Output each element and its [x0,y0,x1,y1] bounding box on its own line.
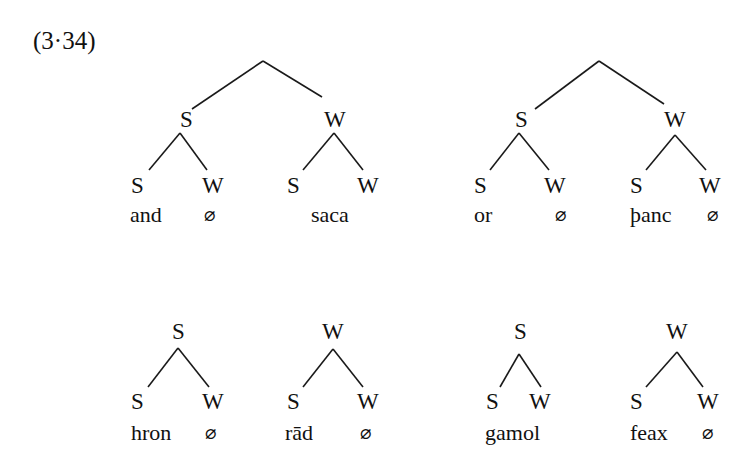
tree-hron: S S W hron ∅ [131,319,224,445]
node-s: S [287,173,300,198]
edge [519,354,541,387]
node-s: S [630,389,643,414]
node-s: S [474,173,487,198]
node-s: S [515,107,528,132]
edge [519,133,549,170]
null-symbol: ∅ [360,422,371,444]
edge [677,352,703,387]
word-or: or [474,202,493,227]
edge [646,352,677,387]
edge [180,133,207,170]
node-w: W [202,173,224,198]
edge [303,349,333,387]
null-symbol: ∅ [555,204,566,226]
tree-rad: W S W rād ∅ [285,319,379,445]
tree-gamol: S S W gamol [485,319,551,445]
node-w: W [529,389,551,414]
word-rad: rād [285,420,313,445]
node-w: W [699,173,721,198]
edge [192,61,263,109]
edge [149,133,180,170]
word-panc: þanc [630,202,672,227]
node-s: S [131,173,144,198]
node-w: W [324,107,346,132]
tree-or-panc: S W S W S W or ∅ þanc ∅ [474,61,721,227]
edge [263,61,322,97]
edge [675,135,706,170]
node-w: W [544,173,566,198]
node-s: S [131,389,144,414]
node-s: S [514,319,527,344]
word-feax: feax [630,420,668,445]
node-s: S [180,107,193,132]
edge [535,61,599,109]
node-w: W [322,319,344,344]
null-symbol: ∅ [702,422,713,444]
edge [178,348,209,387]
tree-and-saca: S W S W S W and ∅ saca [130,61,379,227]
null-symbol: ∅ [205,422,216,444]
node-w: W [697,389,719,414]
tree-feax: W S W feax ∅ [630,319,719,445]
node-w: W [357,173,379,198]
edge [500,354,519,387]
edge [646,135,675,170]
edge [333,349,363,387]
word-gamol: gamol [485,420,540,445]
word-saca: saca [311,202,349,227]
word-hron: hron [131,420,171,445]
edge [148,348,178,387]
node-s: S [486,389,499,414]
edge [334,133,363,170]
node-s: S [630,173,643,198]
edge [599,61,664,104]
node-s: S [287,389,300,414]
node-s: S [172,319,185,344]
node-w: W [357,389,379,414]
null-symbol: ∅ [707,204,718,226]
word-and: and [130,202,162,227]
node-w: W [666,319,688,344]
edge [303,133,334,170]
node-w: W [664,107,686,132]
node-w: W [202,389,224,414]
edge [490,133,519,170]
null-symbol: ∅ [204,204,215,226]
metrical-trees-diagram: S W S W S W and ∅ saca S W S W S W or ∅ … [0,0,751,469]
